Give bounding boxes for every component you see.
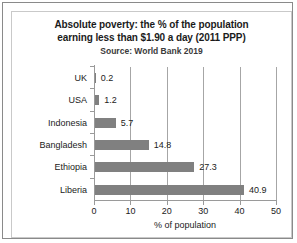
x-axis-label-30: 30: [198, 206, 208, 216]
bar-liberia: [95, 185, 244, 195]
x-axis-label-40: 40: [235, 206, 245, 216]
bar-value-liberia: 40.9: [249, 185, 267, 195]
outer-border: Absolute poverty: the % of the populatio…: [2, 2, 293, 239]
x-axis-title: % of population: [154, 220, 216, 230]
x-axis-label-50: 50: [271, 206, 281, 216]
chart-title-line-1: Absolute poverty: the % of the populatio…: [12, 18, 291, 31]
bar-row: Indonesia5.7: [94, 112, 276, 134]
category-label-uk: UK: [74, 73, 87, 83]
x-axis-label-20: 20: [162, 206, 172, 216]
y-axis-tick: [90, 66, 94, 67]
y-axis-tick: [90, 133, 94, 134]
plot-area: UK0.2USA1.2Indonesia5.7Bangladesh14.8Eth…: [94, 67, 276, 201]
bar-row: USA1.2: [94, 89, 276, 111]
bar-value-indonesia: 5.7: [121, 118, 134, 128]
x-axis-tick-30: [203, 201, 204, 205]
x-axis-label-10: 10: [125, 206, 135, 216]
bar-value-bangladesh: 14.8: [154, 140, 172, 150]
y-axis-tick: [90, 88, 94, 89]
x-axis-tick-20: [167, 201, 168, 205]
chart-subtitle: Source: World Bank 2019: [12, 45, 291, 57]
bar-row: Bangladesh14.8: [94, 134, 276, 156]
bar-row: UK0.2: [94, 67, 276, 89]
bar-indonesia: [95, 118, 116, 128]
y-axis-tick: [90, 178, 94, 179]
chart-panel: Absolute poverty: the % of the populatio…: [11, 11, 292, 238]
x-axis-tick-10: [130, 201, 131, 205]
y-axis-tick: [90, 111, 94, 112]
bar-value-ethiopia: 27.3: [199, 162, 217, 172]
category-label-bangladesh: Bangladesh: [39, 140, 87, 150]
x-axis-tick-50: [276, 201, 277, 205]
chart-title-line-2: earning less than $1.90 a day (2011 PPP): [12, 31, 291, 44]
bar-bangladesh: [95, 140, 149, 150]
category-label-ethiopia: Ethiopia: [54, 162, 87, 172]
x-axis-label-0: 0: [91, 206, 96, 216]
bar-value-uk: 0.2: [101, 73, 114, 83]
chart-title-block: Absolute poverty: the % of the populatio…: [12, 18, 291, 57]
bar-ethiopia: [95, 162, 194, 172]
y-axis-tick: [90, 155, 94, 156]
x-axis-tick-0: [94, 201, 95, 205]
category-label-liberia: Liberia: [60, 185, 87, 195]
bar-row: Ethiopia27.3: [94, 156, 276, 178]
gridline-50: [276, 67, 277, 201]
bar-usa: [95, 95, 99, 105]
category-label-indonesia: Indonesia: [48, 118, 87, 128]
bar-row: Liberia40.9: [94, 179, 276, 201]
bar-value-usa: 1.2: [104, 95, 117, 105]
bar-uk: [95, 73, 96, 83]
x-axis-tick-40: [240, 201, 241, 205]
category-label-usa: USA: [68, 95, 87, 105]
